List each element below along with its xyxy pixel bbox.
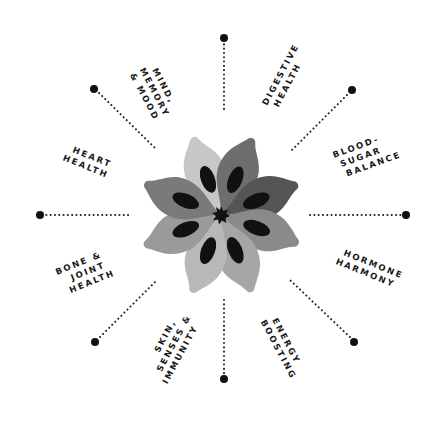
star-anise-flower (136, 130, 305, 300)
spoke-bottom-left (97, 282, 155, 340)
spoke-top-right (290, 92, 350, 152)
dot-top (220, 34, 228, 42)
label-bone-joint-health: BONE & JOINT HEALTH (54, 247, 116, 297)
label-energy-boosting: ENERGY BOOSTING (259, 313, 309, 381)
spoke-bottom-right (290, 280, 353, 340)
dot-bottom-right (350, 338, 358, 346)
dot-bottom (220, 375, 228, 383)
label-blood-sugar-balance: BLOOD- SUGAR BALANCE (331, 129, 402, 181)
dot-right (402, 211, 410, 219)
label-skin-senses-immunity: SKIN, SENSES & IMMUNITY (141, 307, 203, 385)
label-digestive-health: DIGESTIVE HEALTH (260, 42, 311, 112)
dot-bottom-left (91, 338, 99, 346)
label-hormone-harmony: HORMONE HARMONY (334, 246, 404, 291)
dot-top-right (348, 86, 356, 94)
label-heart-health: HEART HEALTH (62, 142, 115, 180)
label-mind-memory-mood: MIND, MEMORY & MOOD (128, 61, 182, 124)
dot-left (36, 211, 44, 219)
wellness-star-anise-diagram: MIND, MEMORY & MOOD DIGESTIVE HEALTH BLO… (0, 0, 443, 422)
dot-top-left (90, 85, 98, 93)
